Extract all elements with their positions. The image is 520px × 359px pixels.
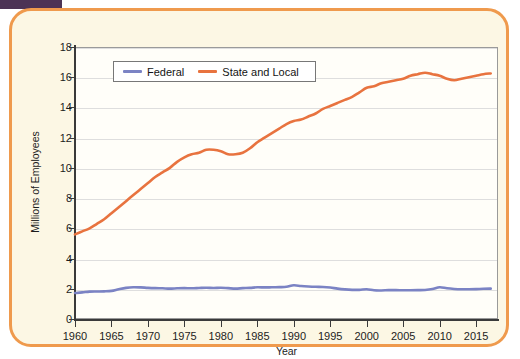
gridline [76, 290, 497, 291]
y-tick-mark [69, 138, 75, 139]
legend-swatch-icon [198, 70, 217, 73]
gridline [76, 260, 497, 261]
legend-entry-state-and-local: State and Local [198, 66, 305, 78]
x-tick-mark [476, 321, 477, 327]
x-tick-mark [403, 321, 404, 327]
y-tick-mark [69, 319, 75, 320]
plot-area [75, 47, 498, 319]
y-tick-mark [69, 289, 75, 290]
figure-card: 024681012141618 196019651970197519801985… [9, 8, 509, 347]
y-tick-mark [69, 168, 75, 169]
y-axis-title: Millions of Employees [29, 102, 41, 262]
x-tick-mark [75, 321, 76, 327]
x-tick-mark [221, 321, 222, 327]
y-tick-mark [69, 259, 75, 260]
x-tick-mark [294, 321, 295, 327]
x-tick-mark [111, 321, 112, 327]
y-tick-mark [69, 47, 75, 48]
y-tick-mark [69, 77, 75, 78]
gridline [76, 199, 497, 200]
x-tick-mark [184, 321, 185, 327]
legend-label: State and Local [222, 66, 298, 78]
y-axis-tick-labels: 024681012141618 [42, 11, 72, 359]
x-tick-mark [257, 321, 258, 327]
x-tick-mark [440, 321, 441, 327]
y-tick-mark [69, 107, 75, 108]
legend-label: Federal [147, 66, 184, 78]
y-axis-line [74, 45, 76, 321]
gridline [76, 108, 497, 109]
gridline [76, 169, 497, 170]
y-tick-mark [69, 198, 75, 199]
x-tick-mark [367, 321, 368, 327]
x-tick-mark [148, 321, 149, 327]
chart-legend: FederalState and Local [113, 61, 316, 82]
x-tick-mark [330, 321, 331, 327]
y-tick-mark [69, 228, 75, 229]
legend-entry-federal: Federal [123, 66, 191, 78]
gridline [76, 229, 497, 230]
legend-swatch-icon [123, 70, 142, 73]
gridline [76, 48, 497, 49]
x-tick-label: 2015 [454, 330, 498, 342]
x-axis-line [74, 319, 499, 321]
x-axis-title: Year [75, 345, 498, 357]
gridline [76, 139, 497, 140]
